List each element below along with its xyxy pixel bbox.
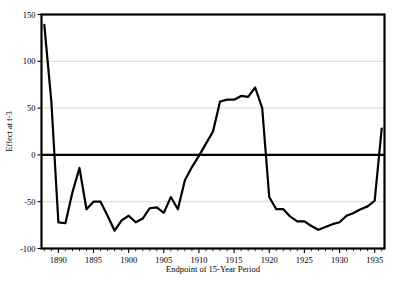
line-chart: -100-50050100150 18901895190019051910191… [0, 0, 398, 288]
svg-text:0: 0 [31, 150, 35, 160]
x-axis-title: Endpoint of 15-Year Period [166, 264, 261, 274]
svg-text:1920: 1920 [261, 255, 278, 265]
svg-text:1915: 1915 [226, 255, 243, 265]
svg-text:150: 150 [23, 10, 36, 20]
svg-text:1910: 1910 [190, 255, 207, 265]
svg-text:-100: -100 [20, 244, 36, 254]
svg-text:100: 100 [23, 56, 36, 66]
svg-text:1930: 1930 [331, 255, 348, 265]
svg-text:1905: 1905 [155, 255, 172, 265]
y-axis-title: Effect at t-3 [4, 111, 14, 151]
svg-text:1925: 1925 [296, 255, 313, 265]
chart-background [0, 0, 398, 288]
chart-figure: -100-50050100150 18901895190019051910191… [0, 0, 398, 288]
svg-text:-50: -50 [24, 197, 35, 207]
svg-text:50: 50 [27, 103, 36, 113]
svg-text:1900: 1900 [120, 255, 137, 265]
svg-text:1895: 1895 [85, 255, 102, 265]
svg-text:1890: 1890 [50, 255, 67, 265]
svg-text:1935: 1935 [366, 255, 383, 265]
